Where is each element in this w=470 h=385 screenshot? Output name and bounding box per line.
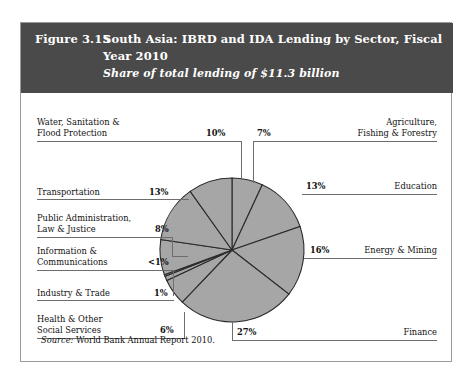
callout-information-label-line2: Communications [37,257,108,268]
leader-line-public-admin-stub [172,256,188,257]
callout-information-communications: Information & Communications [37,246,108,268]
leader-line-agriculture-vertical [253,141,254,183]
source-text: World Bank Annual Report 2010. [76,335,215,345]
callout-agriculture-label-line1: Agriculture, [358,117,437,128]
callout-health-label-line1: Health & Other [37,314,102,325]
callout-water-percent: 10% [206,128,225,138]
chart-plot-area: (function(){ var d = JSON.parse(document… [21,93,453,362]
leader-line-industry-trade [37,300,174,301]
figure-header: Figure 3.15 South Asia: IBRD and IDA Len… [21,23,453,93]
callout-finance-percent: 27% [237,327,256,337]
leader-line-agriculture-horizontal [253,141,437,142]
callout-health-percent: 6% [160,325,174,335]
callout-public-administration: Public Administration, Law & Justice [37,213,131,235]
leader-line-energy-mining [304,258,437,259]
callout-water-label-line1: Water, Sanitation & [37,117,120,128]
callout-water-label-line2: Flood Protection [37,128,120,139]
callout-agriculture: Agriculture, Fishing & Forestry [358,117,437,139]
leader-line-water-horizontal [37,141,242,142]
callout-energy-mining-percent: 16% [310,245,329,255]
leader-line-public-admin-vertical [172,237,173,256]
source-note: Source: World Bank Annual Report 2010. [41,335,215,345]
callout-industry-trade-label: Industry & Trade [37,288,110,299]
leader-line-water-vertical [241,141,242,180]
callout-health-social-services: Health & Other Social Services [37,314,102,336]
leader-line-information-horizontal [37,270,174,271]
callout-public-admin-label-line2: Law & Justice [37,224,131,235]
callout-public-admin-label-line1: Public Administration, [37,213,131,224]
figure-title-line2: Year 2010 [103,49,168,63]
callout-transportation-percent: 13% [149,187,168,197]
callout-industry-trade-percent: 1% [154,288,168,298]
figure-title-line1: South Asia: IBRD and IDA Lending by Sect… [103,32,442,46]
callout-energy-mining-label: Energy & Mining [364,245,437,256]
figure-number: Figure 3.15 [35,32,110,46]
leader-line-education [302,194,437,195]
callout-finance-label: Finance [403,327,437,338]
leader-line-public-admin-horizontal [37,237,173,238]
callout-education-label: Education [394,181,437,192]
figure-subtitle: Share of total lending of $11.3 billion [103,67,340,80]
callout-transportation-label: Transportation [37,187,100,198]
callout-education-percent: 13% [306,181,325,191]
leader-line-finance-horizontal [232,340,437,341]
callout-information-percent: <1% [148,257,169,267]
leader-line-finance-vertical [232,322,233,340]
source-prefix: Source: [41,335,73,345]
callout-agriculture-percent: 7% [257,128,271,138]
callout-water-sanitation: Water, Sanitation & Flood Protection [37,117,120,139]
leader-line-transportation [37,199,189,200]
callout-agriculture-label-line2: Fishing & Forestry [358,128,437,139]
callout-public-admin-percent: 8% [155,224,169,234]
leader-line-information-vertical [173,270,174,296]
callout-information-label-line1: Information & [37,246,108,257]
figure-panel: Figure 3.15 South Asia: IBRD and IDA Len… [20,22,452,362]
